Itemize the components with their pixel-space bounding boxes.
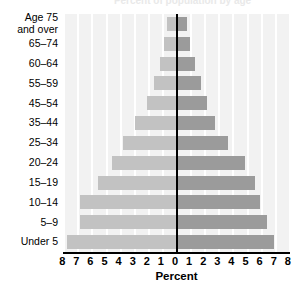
y-axis-label-4: 55–59 (0, 78, 58, 90)
bar-right-5 (177, 96, 207, 110)
y-axis-label-7: 25–34 (0, 137, 58, 149)
bar-left-7 (123, 136, 177, 150)
y-axis-label-9: 15–19 (0, 177, 58, 189)
bar-right-4 (177, 76, 201, 90)
bar-right-8 (177, 156, 245, 170)
y-axis-label-1: Age 75 and over (0, 12, 58, 35)
bar-right-2 (177, 37, 190, 51)
bar-right-7 (177, 136, 228, 150)
bar-left-12 (67, 235, 177, 249)
x-axis-tick-labels: 87654321012345678 (0, 255, 305, 269)
bar-left-8 (112, 156, 177, 170)
y-axis-label-5: 45–54 (0, 98, 58, 110)
population-pyramid-chart: Percent of population by age Age 75 and … (0, 0, 305, 289)
bar-right-9 (177, 176, 255, 190)
bar-left-10 (80, 195, 177, 209)
y-axis-label-6: 35–44 (0, 117, 58, 129)
x-axis-title: Percent (63, 270, 290, 282)
bar-right-12 (177, 235, 274, 249)
bar-right-11 (177, 215, 267, 229)
bar-left-4 (154, 76, 177, 90)
bar-right-1 (177, 17, 187, 31)
bar-left-3 (160, 57, 177, 71)
y-axis-label-8: 20–24 (0, 157, 58, 169)
bar-right-10 (177, 195, 260, 209)
y-axis-category-labels: Age 75 and over65–7460–6455–5945–5435–44… (0, 14, 62, 252)
bar-right-6 (177, 116, 215, 130)
bar-left-11 (80, 215, 177, 229)
bar-right-3 (177, 57, 195, 71)
y-axis-label-12: Under 5 (0, 236, 58, 248)
y-axis-label-10: 10–14 (0, 197, 58, 209)
bar-left-9 (98, 176, 177, 190)
plot-inner (65, 14, 290, 252)
plot-area (63, 14, 290, 252)
y-axis-label-2: 65–74 (0, 38, 58, 50)
y-axis-label-11: 5–9 (0, 217, 58, 229)
y-axis-label-3: 60–64 (0, 58, 58, 70)
x-tick-label-17: 8 (278, 255, 298, 268)
chart-title: Percent of population by age (60, 0, 305, 6)
bar-left-6 (135, 116, 177, 130)
zero-axis-line (176, 14, 178, 254)
bar-left-5 (147, 96, 177, 110)
